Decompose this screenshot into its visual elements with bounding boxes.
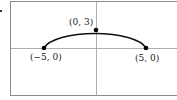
graph-figure: (0, 3) (−5, 0) (5, 0) [0, 0, 177, 100]
label-top: (0, 3) [69, 17, 93, 27]
point-right [144, 46, 149, 51]
label-right: (5, 0) [135, 53, 159, 63]
semi-ellipse-curve [44, 34, 146, 48]
margin-marker [0, 10, 2, 12]
point-top [94, 28, 99, 33]
point-left [42, 46, 47, 51]
label-left: (−5, 0) [30, 52, 62, 62]
